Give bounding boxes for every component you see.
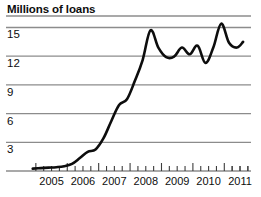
y-axis-tick-label-15: 15 — [7, 28, 20, 40]
y-axis-tick-label-6: 6 — [7, 115, 13, 127]
chart-figure: Millions of loans 3691215 20052006200720… — [0, 0, 261, 197]
y-axis-tick-label-3: 3 — [7, 143, 13, 155]
gridlines-group — [6, 16, 251, 142]
data-series-line-group — [33, 24, 243, 169]
line-chart-plot — [0, 0, 261, 197]
x-axis-tick-label-2011: 2011 — [220, 175, 260, 187]
data-line-loans — [33, 24, 243, 169]
y-axis-tick-label-12: 12 — [7, 57, 20, 69]
y-axis-tick-label-9: 9 — [7, 86, 13, 98]
